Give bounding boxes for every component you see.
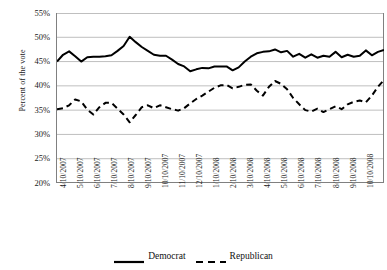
x-tick-label: 10/10/2007 [162, 154, 170, 188]
x-tick-label: 8/10/2007 [128, 158, 136, 188]
x-tick-label: 3/10/2008 [247, 158, 255, 188]
x-tick-label: 7/10/2007 [111, 158, 119, 188]
y-tick-label: 25% [20, 154, 50, 163]
x-tick-label: 10/10/2008 [367, 154, 375, 188]
legend-entry-republican[interactable]: Republican [196, 251, 273, 261]
y-axis-tick-labels: 55%50%45%40%35%30%25%20% [18, 0, 50, 270]
legend-swatch-republican [196, 252, 226, 260]
y-tick-label: 30% [20, 130, 50, 139]
series-line-democrat [57, 37, 384, 71]
x-tick-label: 6/10/2008 [298, 158, 306, 188]
y-tick-label: 50% [20, 33, 50, 42]
x-tick-label: 12/10/2007 [196, 154, 204, 188]
x-tick-label: 7/10/2008 [315, 158, 323, 188]
x-tick-label: 1/10/2008 [213, 158, 221, 188]
x-axis-tick-labels: 4/10/20075/10/20076/10/20077/10/20078/10… [56, 185, 383, 245]
x-tick-label: 4/10/2007 [60, 158, 68, 188]
legend-label: Democrat [148, 251, 185, 261]
vote-percentage-line-chart: Percent of the vote 55%50%45%40%35%30%25… [0, 0, 387, 270]
x-tick-label: 2/10/2008 [230, 158, 238, 188]
y-tick-label: 20% [20, 179, 50, 188]
x-tick-label: 4/10/2008 [264, 158, 272, 188]
x-tick-label: 5/10/2008 [281, 158, 289, 188]
y-tick-label: 45% [20, 57, 50, 66]
legend-swatch-democrat [114, 252, 144, 260]
x-tick-label: 11/10/2007 [179, 154, 187, 188]
x-tick-label: 9/10/2007 [145, 158, 153, 188]
x-tick-label: 8/10/2008 [333, 158, 341, 188]
series-line-republican [57, 80, 384, 122]
y-tick-label: 35% [20, 106, 50, 115]
x-tick-label: 6/10/2007 [94, 158, 102, 188]
chart-legend: DemocratRepublican [0, 246, 387, 266]
data-series-lines [57, 37, 384, 122]
x-tick-label: 5/10/2007 [77, 158, 85, 188]
legend-label: Republican [230, 251, 273, 261]
x-tick-label: 9/10/2008 [350, 158, 358, 188]
y-tick-label: 55% [20, 9, 50, 18]
legend-entry-democrat[interactable]: Democrat [114, 251, 185, 261]
y-tick-label: 40% [20, 81, 50, 90]
